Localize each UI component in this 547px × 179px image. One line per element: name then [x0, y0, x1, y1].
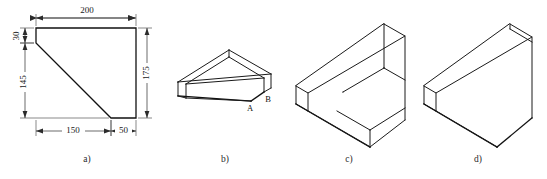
- caption-d: d): [474, 154, 482, 165]
- dimension-bottom-150: 150: [36, 120, 111, 137]
- technical-drawing-canvas: 200 30 145 175: [0, 0, 547, 179]
- dim-right-height-label: 175: [141, 66, 151, 80]
- dim-bottom-left-label: 150: [66, 125, 80, 135]
- dimension-top-200: 200: [36, 4, 136, 26]
- dim-left-lower-label: 145: [18, 75, 28, 89]
- dimension-left-30: 30: [11, 28, 34, 43]
- dimension-left-145: 145: [18, 43, 109, 118]
- part-b-solid: [178, 50, 271, 101]
- dim-left-upper-label: 30: [11, 31, 21, 41]
- part-b-point-labels: A B: [247, 94, 271, 113]
- dim-top-width-label: 200: [80, 5, 94, 15]
- drawing-sheet: 200 30 145 175: [0, 0, 547, 179]
- caption-a: a): [83, 154, 90, 165]
- part-a-outline: [36, 28, 136, 118]
- dimension-right-175: 175: [138, 28, 153, 118]
- dim-bottom-right-label: 50: [119, 125, 129, 135]
- dimension-bottom-50: 50: [111, 120, 136, 137]
- part-c-solid: [296, 24, 405, 147]
- figure-captions: a) b) c) d): [83, 154, 482, 165]
- caption-c: c): [345, 154, 352, 165]
- label-point-a: A: [247, 103, 254, 113]
- part-d-solid: [424, 24, 532, 147]
- label-point-b: B: [265, 94, 271, 104]
- caption-b: b): [221, 154, 229, 165]
